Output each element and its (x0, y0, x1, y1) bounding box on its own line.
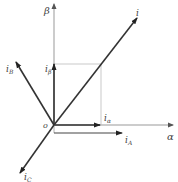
i-vector-label: i (136, 8, 139, 18)
i-c-vector (20, 125, 54, 173)
i-alpha-label: iα (104, 113, 111, 124)
i-b-label: iB (6, 64, 14, 75)
alpha-axis-label: α (167, 131, 174, 142)
beta-axis-label: β (43, 5, 50, 16)
i-beta-label: iβ (45, 64, 52, 76)
i-c-label: iC (24, 172, 32, 182)
clarke-transform-diagram: β α o i iβ iα iA iB iC (0, 0, 178, 182)
i-a-label: iA (125, 135, 133, 146)
i-vector (54, 18, 137, 125)
origin-label: o (43, 121, 48, 130)
